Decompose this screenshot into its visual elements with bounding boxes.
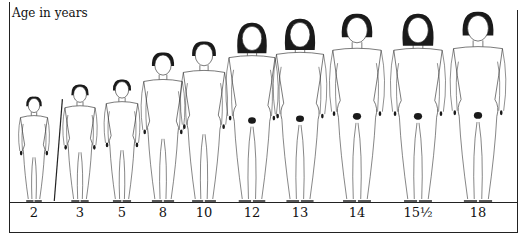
age-label: 18 <box>470 205 487 220</box>
age-label: 2 <box>30 205 38 220</box>
age-label: 13 <box>292 205 309 220</box>
figure-age-12 <box>226 23 278 201</box>
age-label: 14 <box>349 205 366 220</box>
figure-illustrations <box>0 0 526 238</box>
age-label: 12 <box>244 205 261 220</box>
figure-age-5 <box>104 80 140 201</box>
figure-age-15½ <box>390 14 445 201</box>
figure-age-18 <box>450 12 506 201</box>
figure-age-13 <box>273 19 327 201</box>
age-label: 15½ <box>403 205 432 220</box>
figure-age-3 <box>63 85 97 201</box>
age-label: 3 <box>76 205 84 220</box>
age-label: 8 <box>159 205 167 220</box>
figure-age-8 <box>141 52 185 201</box>
figure-age-10 <box>180 41 227 201</box>
figure-age-14 <box>329 14 384 201</box>
age-label: 5 <box>118 205 126 220</box>
figure-age-2 <box>19 97 63 201</box>
age-label: 10 <box>196 205 213 220</box>
